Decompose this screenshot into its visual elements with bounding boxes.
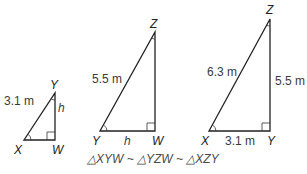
right-angle-marker — [147, 123, 155, 131]
side-label-hypotenuse: 3.1 m — [4, 94, 34, 108]
right-angle-marker — [47, 132, 55, 140]
side-label-h: h — [58, 101, 65, 115]
angle-arc-x — [212, 125, 216, 131]
similarity-statement: △XYW ~ △YZW ~ △XZY — [86, 152, 220, 166]
vertex-label-w: W — [152, 134, 165, 148]
side-label-hypotenuse: 6.3 m — [207, 65, 237, 79]
vertex-label-x: X — [200, 134, 210, 148]
vertex-label-w: W — [52, 143, 65, 157]
vertex-label-z: Z — [149, 17, 158, 31]
similar-triangles-diagram: X W Y 3.1 m h Y W Z 5.5 m h X Y Z 6.3 m … — [0, 0, 307, 174]
vertex-label-y: Y — [92, 134, 101, 148]
triangle-yzw: Y W Z 5.5 m h — [92, 17, 165, 148]
side-label-base: 3.1 m — [225, 134, 255, 148]
angle-arc-y — [103, 125, 107, 131]
side-label-vertical: 5.5 m — [275, 74, 305, 88]
triangle-xyw: X W Y 3.1 m h — [4, 78, 65, 157]
side-label-hypotenuse: 5.5 m — [92, 72, 122, 86]
angle-arc-x — [28, 134, 31, 140]
vertex-label-z: Z — [265, 3, 274, 17]
right-angle-marker — [262, 123, 270, 131]
vertex-label-y: Y — [50, 78, 59, 92]
vertex-label-x: X — [13, 143, 23, 157]
vertex-label-y: Y — [267, 134, 276, 148]
triangle-xzy: X Y Z 6.3 m 5.5 m 3.1 m — [200, 3, 305, 148]
side-label-h: h — [124, 134, 131, 148]
